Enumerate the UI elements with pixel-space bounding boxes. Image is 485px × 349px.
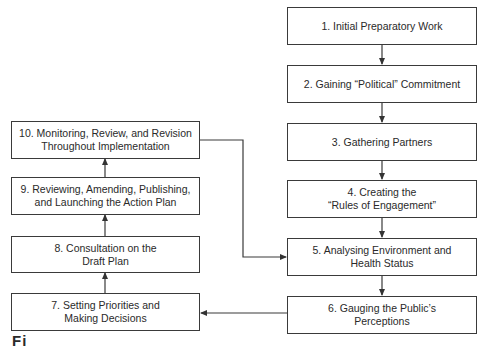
step-10-box: 10. Monitoring, Review, and Revision Thr… [11,121,200,159]
step-3-label: 3. Gathering Partners [332,136,432,149]
step-10-label: 10. Monitoring, Review, and Revision Thr… [19,127,192,153]
step-2-label: 2. Gaining “Political” Commitment [304,78,460,91]
step-6-label: 6. Gauging the Public’s Perceptions [328,302,436,328]
step-9-box: 9. Reviewing, Amending, Publishing, and … [11,177,200,215]
figure-caption-fragment: Fi [12,333,27,348]
step-4-box: 4. Creating the “Rules of Engagement” [287,180,477,218]
arrow-10-to-5 [200,140,286,257]
step-6-box: 6. Gauging the Public’s Perceptions [287,296,477,334]
step-3-box: 3. Gathering Partners [287,123,477,161]
step-4-label: 4. Creating the “Rules of Engagement” [328,186,436,212]
step-9-label: 9. Reviewing, Amending, Publishing, and … [21,183,191,209]
step-1-box: 1. Initial Preparatory Work [287,7,477,45]
step-7-label: 7. Setting Priorities and Making Decisio… [51,299,160,325]
step-1-label: 1. Initial Preparatory Work [321,20,442,33]
step-8-label: 8. Consultation on the Draft Plan [54,242,156,268]
step-7-box: 7. Setting Priorities and Making Decisio… [11,293,200,331]
step-5-label: 5. Analysing Environment and Health Stat… [313,244,452,270]
step-2-box: 2. Gaining “Political” Commitment [287,65,477,103]
step-5-box: 5. Analysing Environment and Health Stat… [287,238,477,276]
step-8-box: 8. Consultation on the Draft Plan [11,236,200,273]
